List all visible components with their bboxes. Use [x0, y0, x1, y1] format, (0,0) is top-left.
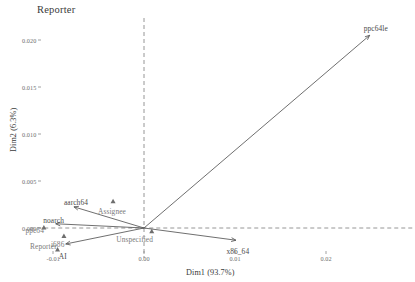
arrow-label-x86_64: x86_64: [226, 247, 249, 256]
arrow-label-ppc64le: ppc64le: [364, 24, 388, 33]
x-axis-tick-label: 0.01: [230, 255, 241, 262]
arrow-label-noarch: noarch: [43, 216, 64, 225]
mca-biplot: Reporter Dim1 (93.7%) Dim2 (6.3%) -0.010…: [0, 0, 415, 282]
category-label-unspecified: Unspecified: [116, 235, 153, 244]
category-point-marker: [61, 233, 66, 238]
y-axis-tick-label: 0.020: [22, 37, 36, 44]
y-axis-tick-label: 0.010: [22, 131, 36, 138]
biplot-arrow: [144, 228, 236, 240]
x-axis-tick-label: 0.00: [139, 255, 150, 262]
y-axis-tick-label: 0.015: [22, 84, 36, 91]
x-axis-tick-label: 0.02: [321, 255, 332, 262]
category-label-assignee: Assignee: [98, 207, 126, 216]
category-label-ppc64: ppc64: [25, 226, 44, 235]
category-point-marker: [111, 199, 116, 204]
biplot-arrow: [144, 35, 370, 228]
arrow-label-ai: AI: [59, 252, 67, 261]
category-label-reporter: Reporter: [30, 242, 57, 251]
y-axis-tick-label: 0.005: [22, 178, 36, 185]
arrow-label-aarch64: aarch64: [64, 198, 88, 207]
